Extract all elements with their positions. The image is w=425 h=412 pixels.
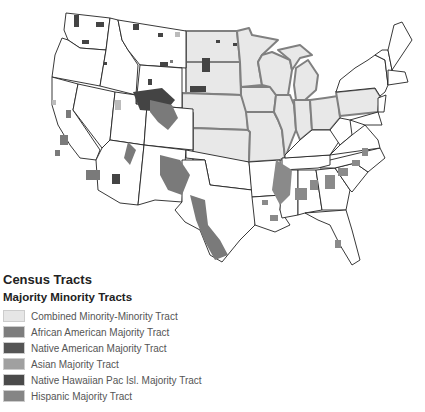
legend-label: Combined Minority-Minority Tract [31,311,178,322]
legend-label: Native American Majority Tract [31,343,167,354]
legend-label: Asian Majority Tract [31,359,119,370]
legend-swatch [3,326,25,338]
legend-swatch [3,390,25,402]
legend-item-native-hawaiian: Native Hawaiian Pac Isl. Majority Tract [3,372,202,388]
us-census-tract-map [0,0,425,272]
legend-label: Native Hawaiian Pac Isl. Majority Tract [31,375,202,386]
cutoff-caption-text: . . . . . . . . . . . . . . . [0,406,425,412]
legend-item-african-american: African American Majority Tract [3,324,202,340]
legend-label: Hispanic Majority Tract [31,391,132,402]
legend-title: Census Tracts [3,272,202,288]
legend-item-asian: Asian Majority Tract [3,356,202,372]
legend-swatch [3,310,25,322]
legend-item-native-american: Native American Majority Tract [3,340,202,356]
legend-subtitle: Majority Minority Tracts [3,290,202,305]
legend-swatch [3,358,25,370]
legend-label: African American Majority Tract [31,327,169,338]
legend-item-hispanic: Hispanic Majority Tract [3,388,202,404]
legend-swatch [3,374,25,386]
legend-item-combined: Combined Minority-Minority Tract [3,308,202,324]
legend-swatch [3,342,25,354]
map-legend: Census Tracts Majority Minority Tracts C… [3,272,202,404]
